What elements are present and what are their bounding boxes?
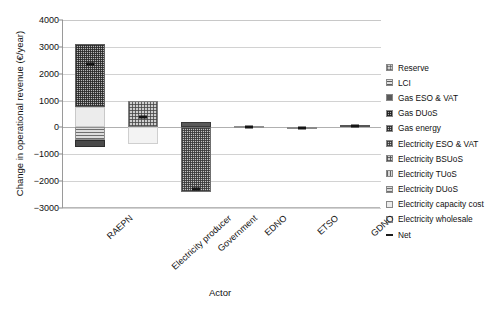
bar-group[interactable] bbox=[128, 20, 158, 207]
gridline bbox=[63, 74, 381, 75]
legend-swatch-icon bbox=[386, 140, 393, 147]
net-marker bbox=[86, 62, 94, 65]
gridline bbox=[63, 154, 381, 155]
legend-item[interactable]: Electricity TUoS bbox=[386, 166, 498, 181]
bar-group[interactable] bbox=[287, 20, 317, 207]
x-tick-label: ETSO bbox=[315, 213, 340, 237]
legend-swatch-icon bbox=[386, 125, 393, 132]
legend-label: Net bbox=[398, 230, 411, 240]
bar-group[interactable] bbox=[181, 20, 211, 207]
chart-figure: Change in operational revenue (€/year) A… bbox=[0, 0, 498, 315]
net-marker bbox=[298, 127, 306, 130]
x-tick-label: EDNO bbox=[262, 213, 288, 238]
legend-swatch-icon bbox=[386, 64, 393, 71]
legend-item[interactable]: Electricity BSUoS bbox=[386, 151, 498, 166]
x-tick-label: RAEPN bbox=[104, 213, 134, 241]
bar-group[interactable] bbox=[340, 20, 370, 207]
bar-segment[interactable] bbox=[75, 127, 105, 140]
legend-swatch-icon bbox=[386, 79, 393, 86]
legend-label: Gas energy bbox=[398, 123, 441, 133]
bar-segment[interactable] bbox=[128, 101, 158, 128]
y-tick-label: −1000 bbox=[34, 149, 59, 159]
net-marker bbox=[139, 116, 147, 119]
legend-label: Electricity wholesale bbox=[398, 214, 473, 224]
legend-label: Electricity DUoS bbox=[398, 184, 458, 194]
gridline bbox=[63, 181, 381, 182]
legend-swatch-icon bbox=[386, 201, 393, 208]
bar-segment[interactable] bbox=[128, 127, 158, 143]
legend-item[interactable]: Gas ESO & VAT bbox=[386, 90, 498, 105]
bar-group[interactable] bbox=[75, 20, 105, 207]
gridline bbox=[63, 47, 381, 48]
legend-swatch-icon bbox=[386, 94, 393, 101]
y-tick-mark bbox=[59, 73, 63, 74]
y-axis-title: Change in operational revenue (€/year) bbox=[14, 0, 25, 229]
y-tick-label: 4000 bbox=[39, 15, 59, 25]
y-tick-label: 2000 bbox=[39, 69, 59, 79]
y-tick-label: 3000 bbox=[39, 42, 59, 52]
chart-legend: ReserveLCIGas ESO & VATGas DUoSGas energ… bbox=[386, 60, 498, 242]
legend-label: Electricity BSUoS bbox=[398, 154, 463, 164]
bar-segment[interactable] bbox=[75, 44, 105, 107]
legend-item[interactable]: Reserve bbox=[386, 60, 498, 75]
legend-label: Gas ESO & VAT bbox=[398, 93, 458, 103]
legend-item[interactable]: Electricity wholesale bbox=[386, 212, 498, 227]
y-tick-label: −3000 bbox=[34, 203, 59, 213]
net-marker bbox=[192, 187, 200, 190]
legend-label: Electricity capacity cost bbox=[398, 199, 484, 209]
legend-label: Electricity TUoS bbox=[398, 169, 457, 179]
zero-line bbox=[63, 127, 381, 128]
legend-swatch-icon bbox=[386, 155, 393, 162]
legend-label: Reserve bbox=[398, 63, 429, 73]
plot-area: 40003000200010000−1000−2000−3000 bbox=[62, 20, 380, 208]
legend-item[interactable]: Electricity ESO & VAT bbox=[386, 136, 498, 151]
x-axis-title: Actor bbox=[55, 287, 385, 298]
y-tick-label: −2000 bbox=[34, 176, 59, 186]
y-tick-mark bbox=[59, 100, 63, 101]
legend-item[interactable]: Net bbox=[386, 227, 498, 242]
y-tick-mark bbox=[59, 46, 63, 47]
gridline bbox=[63, 101, 381, 102]
net-marker bbox=[245, 125, 253, 128]
legend-swatch-icon bbox=[386, 186, 393, 193]
bar-segment[interactable] bbox=[75, 107, 105, 127]
legend-swatch-icon bbox=[386, 170, 393, 177]
bar-segment[interactable] bbox=[75, 140, 105, 147]
legend-swatch-icon bbox=[386, 234, 393, 236]
gridline bbox=[63, 208, 381, 209]
legend-label: Electricity ESO & VAT bbox=[398, 139, 478, 149]
bar-group[interactable] bbox=[234, 20, 264, 207]
legend-item[interactable]: Gas energy bbox=[386, 121, 498, 136]
legend-item[interactable]: Electricity DUoS bbox=[386, 182, 498, 197]
gridline bbox=[63, 20, 381, 21]
y-tick-label: 1000 bbox=[39, 96, 59, 106]
y-tick-mark bbox=[59, 154, 63, 155]
legend-label: LCI bbox=[398, 78, 411, 88]
net-marker bbox=[351, 124, 359, 127]
legend-label: Gas DUoS bbox=[398, 108, 438, 118]
legend-item[interactable]: Gas DUoS bbox=[386, 106, 498, 121]
y-tick-label: 0 bbox=[54, 122, 59, 132]
y-tick-mark bbox=[59, 181, 63, 182]
legend-item[interactable]: LCI bbox=[386, 75, 498, 90]
y-tick-mark bbox=[59, 127, 63, 128]
y-tick-mark bbox=[59, 20, 63, 21]
bar-segment[interactable] bbox=[181, 127, 211, 191]
legend-item[interactable]: Electricity capacity cost bbox=[386, 197, 498, 212]
y-tick-mark bbox=[59, 208, 63, 209]
legend-swatch-icon bbox=[386, 110, 393, 117]
